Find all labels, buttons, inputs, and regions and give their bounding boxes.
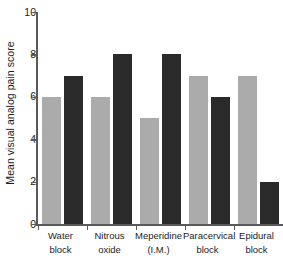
y-axis-tick-mark: [31, 182, 37, 183]
x-axis-category-label-line: block: [183, 243, 232, 257]
x-axis-category-label-line: block: [36, 243, 85, 257]
x-axis-category-label-line: Nitrous: [85, 229, 134, 243]
x-axis-category-label-line: Meperidine: [134, 229, 183, 243]
x-axis-category-labels: WaterblockNitrousoxideMeperidine(I.M.)Pa…: [36, 229, 283, 268]
x-axis-category-label-line: Water: [36, 229, 85, 243]
x-axis-category-label-line: Epidural: [232, 229, 281, 243]
y-axis-title-text: Mean visual analog pain score: [4, 41, 16, 184]
y-axis-tick-mark: [31, 12, 37, 13]
plot-area: [38, 12, 283, 224]
bar: [238, 76, 257, 224]
x-axis-line: [36, 224, 283, 226]
y-axis-tick-mark: [31, 54, 37, 55]
bar-chart-figure: Mean visual analog pain score 0246810 Wa…: [0, 0, 283, 268]
bar: [211, 97, 230, 224]
y-axis-tick-mark: [31, 224, 37, 225]
bar: [91, 97, 110, 224]
bar: [189, 76, 208, 224]
x-axis-category-label: Meperidine(I.M.): [134, 229, 183, 256]
x-axis-category-label-line: block: [232, 243, 281, 257]
x-axis-category-label-line: Paracervical: [183, 229, 232, 243]
y-axis-tick-mark: [31, 97, 37, 98]
bar: [140, 118, 159, 224]
bar: [64, 76, 83, 224]
x-axis-category-label: Waterblock: [36, 229, 85, 256]
y-axis-tick-labels: 0246810: [18, 0, 36, 240]
x-axis-category-label: Nitrousoxide: [85, 229, 134, 256]
bar: [42, 97, 61, 224]
y-axis-title: Mean visual analog pain score: [0, 0, 20, 226]
x-axis-category-label: Epiduralblock: [232, 229, 281, 256]
y-axis-line: [36, 12, 38, 225]
bar: [113, 54, 132, 224]
bar: [260, 182, 279, 224]
x-axis-category-label-line: (I.M.): [134, 243, 183, 257]
x-axis-category-label: Paracervicalblock: [183, 229, 232, 256]
bar: [162, 54, 181, 224]
x-axis-category-label-line: oxide: [85, 243, 134, 257]
y-axis-tick-mark: [31, 139, 37, 140]
